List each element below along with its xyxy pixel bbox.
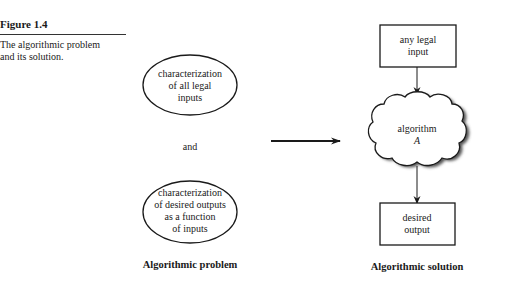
algorithm-label: algorithm — [398, 123, 437, 134]
inputs-ellipse-line-1: characterization — [158, 68, 222, 79]
outputs-ellipse-line-4: of inputs — [172, 223, 207, 234]
outputs-ellipse-line-3: as a function — [164, 211, 215, 222]
outputs-ellipse-line-2: of desired outputs — [154, 199, 226, 210]
output-box: desired output — [380, 203, 455, 245]
input-box-line-1: any legal — [400, 34, 437, 45]
diagram-canvas: characterization of all legal inputs and… — [0, 0, 505, 288]
algorithm-cloud: algorithm A — [368, 92, 469, 168]
problem-title: Algorithmic problem — [143, 259, 238, 270]
output-box-line-2: output — [404, 224, 430, 235]
inputs-ellipse: characterization of all legal inputs — [143, 55, 237, 115]
input-box: any legal input — [380, 25, 456, 67]
algorithm-variable: A — [413, 135, 421, 146]
output-box-line-1: desired — [403, 212, 432, 223]
outputs-ellipse: characterization of desired outputs as a… — [143, 181, 237, 243]
outputs-ellipse-line-1: characterization — [158, 187, 222, 198]
solution-title: Algorithmic solution — [371, 261, 464, 272]
input-box-line-2: input — [408, 46, 429, 57]
inputs-ellipse-line-3: inputs — [178, 92, 203, 103]
inputs-ellipse-line-2: of all legal — [169, 80, 212, 91]
and-connector: and — [183, 141, 197, 152]
